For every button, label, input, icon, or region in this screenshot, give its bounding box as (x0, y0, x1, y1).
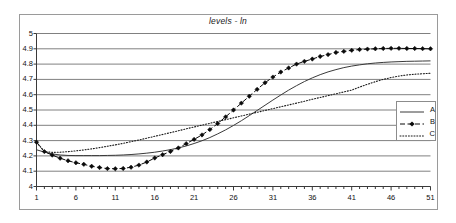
chart-legend: ABC (396, 101, 436, 141)
x-tick-label: 36 (298, 193, 326, 202)
y-tick-label: 5 (2, 29, 33, 38)
legend-swatch-B (399, 116, 425, 128)
series-marker-B (58, 156, 62, 160)
y-tick-label: 4 (2, 182, 33, 191)
series-marker-B (381, 46, 385, 50)
series-marker-B (334, 50, 338, 54)
series-marker-B (153, 156, 157, 160)
legend-swatch-C (399, 128, 425, 140)
series-marker-B (105, 166, 109, 170)
series-marker-B (82, 162, 86, 166)
series-marker-B (286, 66, 290, 70)
y-tick-label: 4.1 (2, 166, 33, 175)
y-tick-label: 4.3 (2, 136, 33, 145)
series-marker-B (373, 47, 377, 51)
series-marker-B (97, 165, 101, 169)
x-tick-label: 46 (377, 193, 405, 202)
x-tick-label: 21 (180, 193, 208, 202)
y-tick-label: 4.2 (2, 151, 33, 160)
x-tick-label: 41 (338, 193, 366, 202)
x-tick-label: 1 (23, 193, 51, 202)
legend-swatch-A (399, 104, 425, 116)
series-marker-B (302, 59, 306, 63)
series-marker-B (137, 163, 141, 167)
y-tick-label: 4.5 (2, 105, 33, 114)
series-marker-B (176, 146, 180, 150)
series-marker-B (89, 164, 93, 168)
series-marker-B (405, 46, 409, 50)
x-tick-label: 31 (259, 193, 287, 202)
chart-container: levels - ln 44.14.24.34.44.54.64.74.84.9… (0, 0, 456, 223)
legend-item-A[interactable]: A (397, 104, 437, 116)
y-tick-label: 4.6 (2, 90, 33, 99)
legend-item-B[interactable]: B (397, 116, 437, 128)
series-marker-B (121, 166, 125, 170)
legend-item-C[interactable]: C (397, 128, 437, 140)
legend-label-A: A (430, 105, 435, 115)
y-tick-label: 4.4 (2, 120, 33, 129)
y-tick-label: 4.7 (2, 74, 33, 83)
x-tick-label: 51 (417, 193, 445, 202)
legend-label-C: C (430, 129, 435, 139)
series-marker-B (74, 161, 78, 165)
series-marker-B (326, 52, 330, 56)
series-marker-B (389, 46, 393, 50)
series-marker-B (113, 167, 117, 171)
series-marker-B (129, 165, 133, 169)
series-marker-B (365, 47, 369, 51)
x-tick-label: 16 (141, 193, 169, 202)
y-tick-label: 4.9 (2, 44, 33, 53)
series-marker-B (318, 54, 322, 58)
x-tick-label: 11 (101, 193, 129, 202)
y-tick-label: 4.8 (2, 59, 33, 68)
plot-area (0, 0, 456, 223)
series-marker-B (294, 62, 298, 66)
series-marker-B (145, 160, 149, 164)
series-marker-B (413, 46, 417, 50)
x-tick-label: 6 (62, 193, 90, 202)
series-marker-B (420, 46, 424, 50)
series-marker-B (357, 47, 361, 51)
series-marker-B (310, 57, 314, 61)
series-marker-B (66, 159, 70, 163)
series-marker-B (397, 46, 401, 50)
series-marker-B (342, 49, 346, 53)
legend-label-B: B (430, 117, 435, 127)
series-marker-B (428, 47, 432, 51)
x-tick-label: 26 (220, 193, 248, 202)
